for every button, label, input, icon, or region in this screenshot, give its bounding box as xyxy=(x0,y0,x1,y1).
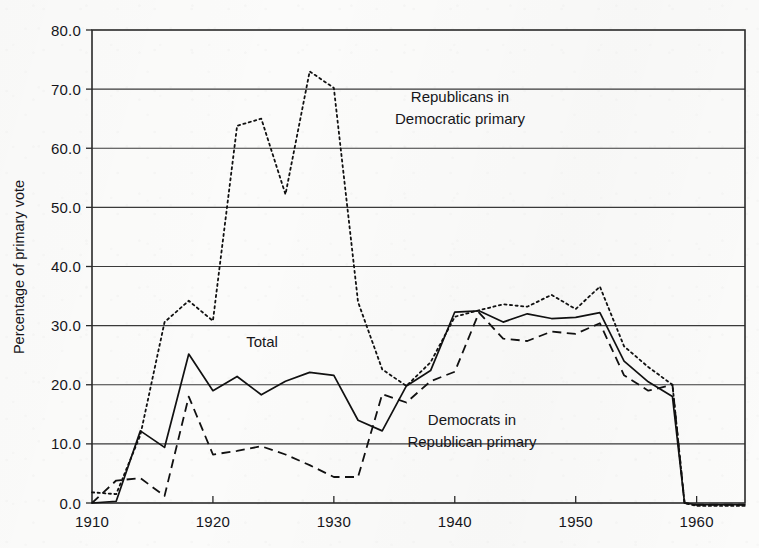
x-tick-labels: 191019201930194019501960 xyxy=(75,513,714,530)
annotation-line-2: Republican primary xyxy=(407,433,537,450)
x-axis-ticks xyxy=(213,496,697,503)
annotation-republicans-in-democratic-primary: Republicans in Democratic primary xyxy=(395,88,526,127)
annotation-line-1: Democrats in xyxy=(428,411,516,428)
x-tick-label: 1930 xyxy=(317,513,351,530)
y-tick-label: 0.0 xyxy=(60,495,81,512)
annotation-line-2: Democratic primary xyxy=(395,110,526,127)
x-tick-label: 1960 xyxy=(680,513,714,530)
x-tick-label: 1920 xyxy=(196,513,230,530)
series-line-democrats-in-republican-primary xyxy=(92,313,745,505)
figure-page: 0.010.020.030.040.050.060.070.080.0 1910… xyxy=(0,0,759,548)
y-tick-label: 70.0 xyxy=(51,81,81,98)
y-tick-label: 30.0 xyxy=(51,317,81,334)
x-tick-label: 1940 xyxy=(438,513,472,530)
x-tick-label: 1910 xyxy=(75,513,109,530)
annotation-line-1: Republicans in xyxy=(411,88,509,105)
series-line-total xyxy=(92,311,745,505)
y-tick-labels: 0.010.020.030.040.050.060.070.080.0 xyxy=(51,22,81,512)
y-tick-label: 40.0 xyxy=(51,258,81,275)
annotation-line-1: Total xyxy=(246,333,278,350)
y-tick-label: 50.0 xyxy=(51,199,81,216)
y-tick-label: 80.0 xyxy=(51,22,81,39)
annotation-total: Total xyxy=(246,333,278,350)
y-axis-title: Percentage of primary vote xyxy=(11,180,27,354)
line-chart: 0.010.020.030.040.050.060.070.080.0 1910… xyxy=(0,0,759,548)
y-tick-label: 10.0 xyxy=(51,435,81,452)
annotation-democrats-in-republican-primary: Democrats in Republican primary xyxy=(407,411,537,450)
y-tick-label: 60.0 xyxy=(51,140,81,157)
y-axis-ticks xyxy=(86,30,92,503)
x-tick-label: 1950 xyxy=(559,513,593,530)
y-tick-label: 20.0 xyxy=(51,376,81,393)
